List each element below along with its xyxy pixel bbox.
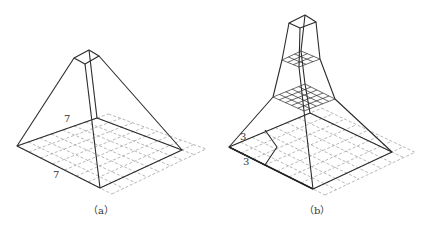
panel-b-base-grid [229, 108, 415, 195]
panel-a-label-top: 7 [64, 113, 70, 124]
panel-b-edge-right [316, 22, 392, 152]
panel-a-edge-left [17, 58, 74, 146]
panel-b-caption: （b） [304, 205, 330, 216]
panel-b: 3 3 （b） [229, 15, 415, 216]
panel-a-base-outline [17, 118, 182, 188]
panel-b-edge-left [229, 23, 289, 147]
panel-a: 7 7 （a） [17, 50, 206, 216]
panel-a-caption: （a） [88, 205, 114, 216]
panel-b-label-bottom: 3 [243, 156, 249, 167]
panel-a-label-bottom: 7 [53, 169, 59, 180]
receptive-field-diagram: 7 7 （a） 3 3 （b） [0, 0, 432, 225]
panel-a-edge-right [99, 56, 182, 150]
panel-a-top-cell [74, 50, 99, 64]
panel-b-top-cell [289, 15, 316, 28]
panel-a-base-grid [17, 114, 206, 194]
panel-b-label-top: 3 [240, 131, 246, 142]
